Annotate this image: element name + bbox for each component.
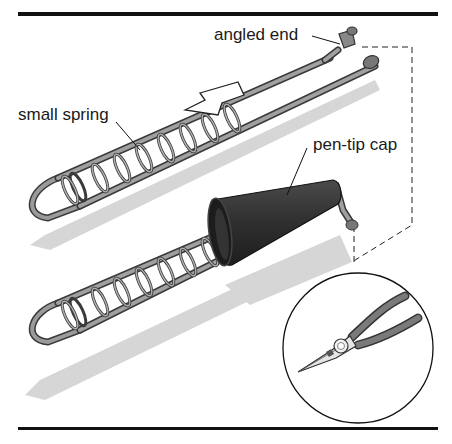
leader-angled-end	[312, 36, 340, 44]
label-small-spring: small spring	[18, 105, 109, 124]
bottom-rule	[18, 427, 438, 430]
angled-end-piece	[339, 27, 357, 48]
dashed-guide	[352, 47, 412, 262]
illustration: angled end small spring	[0, 0, 452, 444]
direction-arrow-icon	[185, 82, 244, 115]
label-pen-tip-cap: pen-tip cap	[313, 135, 397, 154]
label-angled-end: angled end	[214, 25, 298, 44]
top-rule	[18, 12, 438, 16]
